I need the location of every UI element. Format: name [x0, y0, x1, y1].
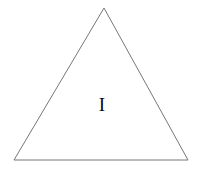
triangle-outline: [14, 8, 188, 160]
triangle-diagram: [0, 0, 201, 169]
figure-canvas: I: [0, 0, 201, 169]
